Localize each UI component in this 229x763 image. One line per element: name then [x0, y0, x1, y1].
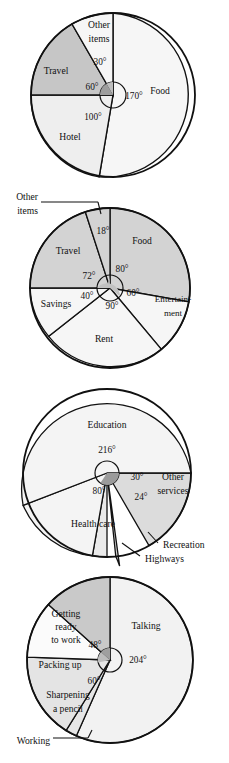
label-talking: Talking [131, 620, 160, 631]
label-getting-3: to work [51, 634, 81, 645]
label-highways: Highways [145, 553, 184, 564]
angle-food: 170° [125, 91, 143, 101]
label-education: Education [88, 419, 127, 430]
pie-chart-figure-stack: Food Hotel Travel Other items 170° 100° … [0, 0, 229, 763]
angle-recreation: 24° [134, 492, 147, 502]
label-other-1: Other [88, 19, 111, 30]
angle-entertainment: 60° [126, 288, 139, 298]
angle-travel: 60° [85, 82, 98, 92]
pie-chart-travel-expenses: Food Hotel Travel Other items 170° 100° … [0, 0, 229, 190]
angle-sharpening: 60° [87, 676, 100, 686]
label-other-1: Other [16, 191, 39, 202]
label-other-2: items [89, 33, 110, 44]
label-other-1: Other [162, 471, 185, 482]
label-recreation: Recreation [163, 539, 205, 550]
pie-chart-government-spending: Education Other services Recreation High… [0, 380, 229, 570]
label-sharpening-1: Sharpening [46, 689, 90, 700]
angle-other: 30° [93, 57, 106, 67]
label-other-2: items [17, 205, 38, 216]
slice-food [110, 208, 190, 302]
label-getting-1: Getting [52, 608, 81, 619]
pie-chart-household-budget: Other items Food Entertain- ment Rent Sa… [0, 190, 229, 380]
label-packing-up: Packing up [39, 659, 82, 670]
angle-talking: 204° [129, 655, 147, 665]
fig4-svg: Talking Getting ready to work Packing up… [0, 570, 229, 763]
label-food: Food [132, 235, 152, 246]
fig3-svg: Education Other services Recreation High… [0, 380, 229, 570]
label-food: Food [150, 85, 170, 96]
label-working: Working [17, 735, 51, 746]
angle-other: 30° [130, 472, 143, 482]
label-rent: Rent [95, 333, 113, 344]
label-travel: Travel [44, 65, 69, 76]
label-entertainment-1: Entertain- [155, 294, 191, 304]
pie-chart-time-at-work: Talking Getting ready to work Packing up… [0, 570, 229, 763]
angle-education: 216° [98, 445, 116, 455]
angle-travel: 72° [82, 271, 95, 281]
angle-rent: 90° [105, 301, 118, 311]
angle-food: 80° [115, 264, 128, 274]
label-savings: Savings [41, 298, 72, 309]
label-entertainment-2: ment [164, 308, 183, 318]
fig2-svg: Other items Food Entertain- ment Rent Sa… [0, 190, 229, 380]
angle-getting: 48° [88, 640, 101, 650]
label-travel: Travel [56, 245, 81, 256]
label-other-2: services [158, 485, 189, 496]
slice-other-services [107, 473, 191, 546]
angle-health: 80° [92, 486, 105, 496]
label-getting-2: ready [55, 621, 77, 632]
angle-hotel: 100° [84, 112, 102, 122]
label-hotel: Hotel [59, 131, 81, 142]
fig1-svg: Food Hotel Travel Other items 170° 100° … [0, 0, 229, 190]
angle-savings: 40° [80, 291, 93, 301]
label-sharpening-2: a pencil [53, 703, 83, 714]
angle-other: 18° [96, 226, 109, 236]
label-health-care: Health care [71, 518, 115, 529]
